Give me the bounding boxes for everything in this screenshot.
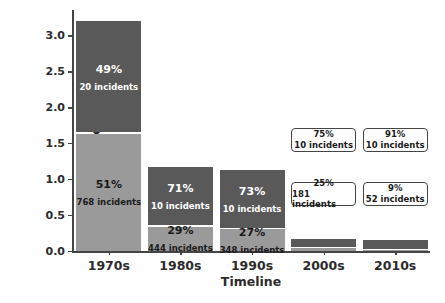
segment-percent-label: 49% [96, 63, 122, 76]
y-tick-label: 1.5 [46, 137, 66, 150]
segment-percent-label: 29% [167, 224, 193, 237]
y-tick-label: 0.0 [46, 245, 66, 258]
bar-annotation-box: 75%10 incidents [291, 128, 356, 152]
x-tick-mark [324, 251, 325, 255]
x-tick-mark [109, 251, 110, 255]
x-tick-label: 1980s [159, 258, 201, 273]
bar-segment-label: 29%444 incidents [148, 227, 213, 251]
segment-incidents-label: 348 incidents [220, 245, 285, 255]
y-tick-label: 1.0 [46, 173, 66, 186]
segment-incidents-label: 768 incidents [76, 197, 141, 207]
bar-segment-label: 49%20 incidents [76, 21, 141, 134]
annotation-incidents-label: 10 incidents [294, 140, 353, 151]
y-tick-mark [68, 71, 72, 72]
y-axis-spine [72, 10, 74, 251]
bar-segment-label: 71%10 incidents [148, 167, 213, 227]
segment-percent-label: 51% [96, 178, 122, 191]
annotation-incidents-label: 52 incidents [366, 194, 425, 205]
annotation-incidents-label: 181 incidents [292, 189, 355, 210]
segment-incidents-label: 444 incidents [148, 243, 213, 253]
y-tick-label: 0.5 [46, 209, 66, 222]
segment-incidents-label: 10 incidents [151, 201, 210, 211]
bar-annotation-box: 91%10 incidents [363, 128, 428, 152]
bar-segment-label: 27%348 incidents [220, 229, 285, 251]
x-tick-label: 2010s [374, 258, 416, 273]
y-tick-mark [68, 215, 72, 216]
segment-percent-label: 73% [239, 185, 265, 198]
y-tick-mark [68, 251, 72, 252]
plot-area: 0.00.51.01.52.02.53.0 1970s1980s1990s200… [72, 10, 430, 251]
segment-percent-label: 71% [167, 182, 193, 195]
bar-segment-upper [363, 240, 428, 249]
segment-incidents-label: 10 incidents [223, 204, 282, 214]
segment-percent-label: 27% [239, 226, 265, 239]
annotation-percent-label: 75% [313, 129, 333, 140]
x-tick-label: 1990s [231, 258, 273, 273]
bar-segment-upper [291, 239, 356, 246]
y-tick-mark [68, 35, 72, 36]
y-tick-mark [68, 107, 72, 108]
bar-annotation-box: 9%52 incidents [363, 182, 428, 206]
bar-segment-label: 51%768 incidents [76, 134, 141, 251]
y-tick-label: 3.0 [46, 29, 66, 42]
x-tick-mark [395, 251, 396, 255]
y-tick-label: 2.0 [46, 101, 66, 114]
bar-annotation-box: 25%181 incidents [291, 182, 356, 206]
x-tick-label: 1970s [88, 258, 130, 273]
x-tick-label: 2000s [302, 258, 344, 273]
x-axis-title: Timeline [72, 274, 430, 289]
bar-segment-lower [363, 250, 428, 251]
chart-figure: Oil spill (in million tonnes) 0.00.51.01… [0, 0, 445, 303]
y-tick-mark [68, 143, 72, 144]
bar-segment-lower [291, 248, 356, 251]
segment-incidents-label: 20 incidents [79, 82, 138, 92]
caption-strip [0, 294, 445, 303]
bar-segment-label: 73%10 incidents [220, 170, 285, 229]
y-tick-label: 2.5 [46, 65, 66, 78]
annotation-incidents-label: 10 incidents [366, 140, 425, 151]
annotation-percent-label: 25% [313, 178, 333, 189]
annotation-percent-label: 91% [385, 129, 405, 140]
y-tick-mark [68, 179, 72, 180]
annotation-percent-label: 9% [388, 183, 402, 194]
